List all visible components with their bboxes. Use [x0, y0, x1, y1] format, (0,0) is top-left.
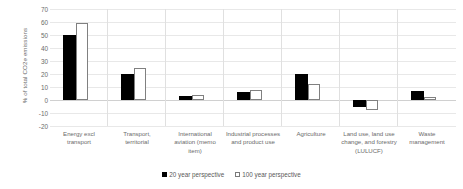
bar[interactable]	[366, 100, 378, 110]
y-axis-tick-label: 50	[26, 32, 48, 39]
legend-item[interactable]: 20 year perspective	[162, 171, 224, 178]
y-axis-tick-label: -10	[26, 110, 48, 117]
x-axis-category-label: Agriculture	[282, 130, 340, 164]
x-axis-category-label: Energy excltransport	[50, 130, 108, 164]
bar-group	[224, 9, 282, 126]
x-axis-category-label: Internationalaviation (memoitem)	[166, 130, 224, 164]
bar-groups	[50, 9, 456, 126]
y-axis-tick-label: 60	[26, 19, 48, 26]
bar[interactable]	[237, 92, 249, 100]
bar-group	[50, 9, 108, 126]
x-axis-category-labels: Energy excltransportTransport,territoria…	[50, 130, 456, 164]
x-axis-category-label: Land use, land usechange, and forestry(L…	[340, 130, 398, 164]
bar-group	[398, 9, 456, 126]
bar[interactable]	[250, 90, 262, 100]
gridline	[50, 126, 456, 127]
bar[interactable]	[295, 74, 307, 100]
bar[interactable]	[76, 23, 88, 100]
bar-group	[282, 9, 340, 126]
legend-label: 20 year perspective	[169, 171, 224, 178]
bar-chart: % of total CO2e emissions 70605040302010…	[0, 0, 463, 189]
chart-legend: 20 year perspective100 year perspective	[0, 171, 463, 178]
bar[interactable]	[411, 91, 423, 100]
legend-item[interactable]: 100 year perspective	[235, 171, 300, 178]
y-axis-tick-label: 10	[26, 84, 48, 91]
bar[interactable]	[63, 35, 75, 100]
bar[interactable]	[308, 84, 320, 100]
legend-label: 100 year perspective	[242, 171, 300, 178]
bar[interactable]	[353, 100, 365, 107]
bar-group	[166, 9, 224, 126]
legend-swatch-icon	[162, 172, 167, 177]
plot-area	[50, 9, 456, 126]
legend-swatch-icon	[235, 172, 240, 177]
x-axis-category-label: Wastemanagement	[398, 130, 456, 164]
bar[interactable]	[121, 74, 133, 100]
bar[interactable]	[179, 96, 191, 100]
y-axis-tick-label: 20	[26, 71, 48, 78]
y-axis-tick-label: 70	[26, 6, 48, 13]
bar[interactable]	[424, 97, 436, 100]
x-axis-category-label: Industrial processesand product use	[224, 130, 282, 164]
bar[interactable]	[192, 95, 204, 100]
bar[interactable]	[134, 68, 146, 101]
x-axis-category-label: Transport,territorial	[108, 130, 166, 164]
y-axis-tick-label: -20	[26, 123, 48, 130]
y-axis-tick-label: 0	[26, 97, 48, 104]
y-axis-tick-labels: 706050403020100-10-20	[26, 0, 48, 189]
y-axis-tick-label: 40	[26, 45, 48, 52]
bar-group	[108, 9, 166, 126]
bar-group	[340, 9, 398, 126]
y-axis-tick-label: 30	[26, 58, 48, 65]
